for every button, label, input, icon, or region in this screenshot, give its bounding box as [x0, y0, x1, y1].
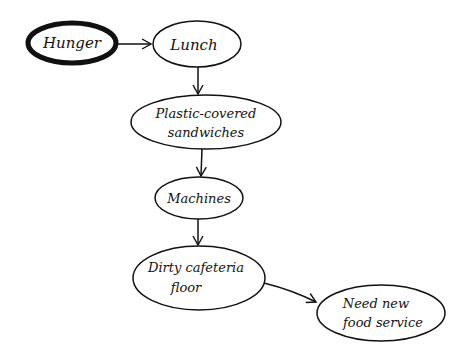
node-food-service-label-line1: Need new	[342, 296, 409, 311]
node-floor-shape	[133, 246, 265, 310]
node-food-service: Need new food service	[317, 285, 445, 341]
node-hunger: Hunger	[28, 23, 116, 63]
node-sandwiches-label-line1: Plastic-covered	[155, 106, 257, 121]
node-machines: Machines	[155, 177, 243, 219]
node-machines-label: Machines	[166, 191, 231, 206]
node-floor-label-line1: Dirty cafeteria	[147, 260, 244, 275]
node-sandwiches-shape	[131, 95, 281, 149]
edge-floor-to-food-service	[264, 283, 316, 302]
flow-diagram: Hunger Lunch Plastic-covered sandwiches …	[0, 0, 465, 362]
node-sandwiches: Plastic-covered sandwiches	[131, 95, 281, 149]
node-floor: Dirty cafeteria floor	[133, 246, 265, 310]
node-lunch: Lunch	[153, 21, 241, 67]
edge-sandwiches-to-machines	[201, 149, 202, 176]
node-food-service-label-line2: food service	[342, 315, 423, 330]
node-hunger-label: Hunger	[42, 34, 102, 52]
node-floor-label-line2: floor	[170, 280, 202, 295]
node-food-service-shape	[317, 285, 445, 341]
node-lunch-label: Lunch	[169, 36, 217, 54]
node-sandwiches-label-line2: sandwiches	[168, 125, 245, 140]
